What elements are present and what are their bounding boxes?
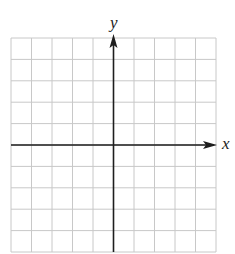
x-axis-label: x (222, 135, 230, 152)
coordinate-grid (0, 0, 235, 254)
y-axis-label: y (110, 14, 118, 31)
axes (11, 34, 217, 252)
